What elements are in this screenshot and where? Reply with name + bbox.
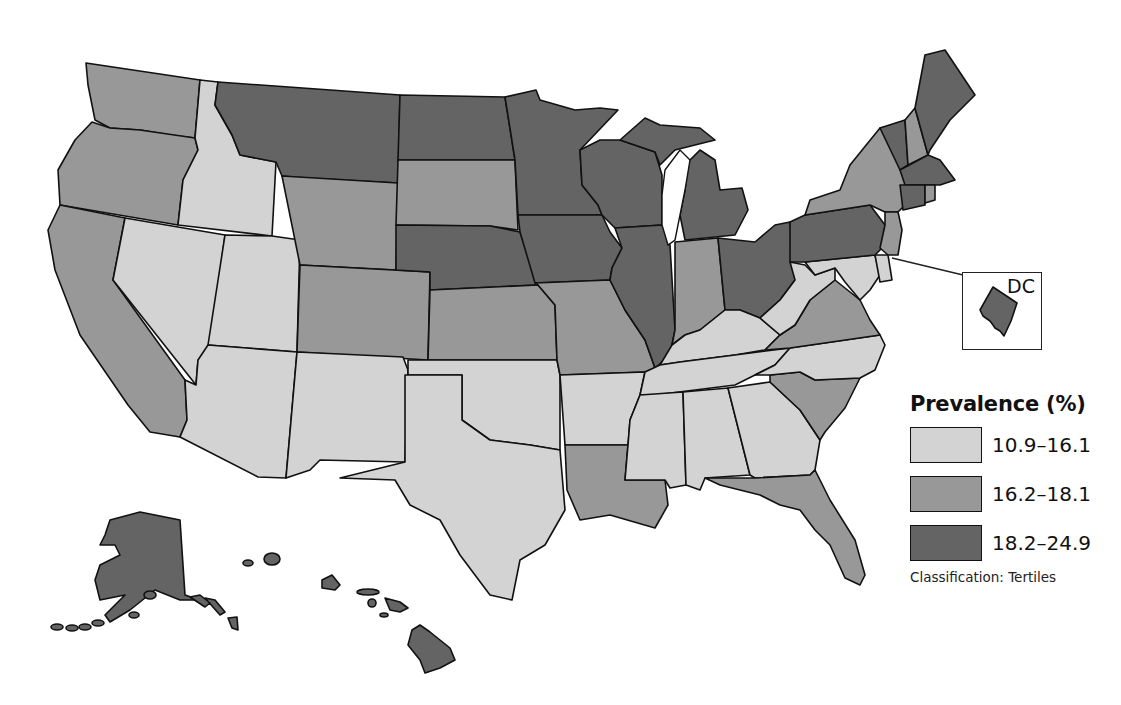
state-mi[interactable] xyxy=(680,150,748,240)
hi-island-molokai[interactable] xyxy=(357,589,379,595)
legend-swatch-low xyxy=(910,427,982,463)
ak-island[interactable] xyxy=(79,624,91,630)
ak-island[interactable] xyxy=(144,591,156,599)
us-choropleth-map xyxy=(0,0,1121,705)
classification-note: Classification: Tertiles xyxy=(910,569,1110,585)
hi-island-maui[interactable] xyxy=(385,598,408,612)
state-ak[interactable] xyxy=(95,512,200,622)
ak-island[interactable] xyxy=(92,620,104,626)
ak-panhandle[interactable] xyxy=(190,595,238,630)
ak-island[interactable] xyxy=(51,624,63,630)
state-sd[interactable] xyxy=(396,160,518,230)
legend-label: 16.2–18.1 xyxy=(992,482,1091,506)
legend-label: 18.2–24.9 xyxy=(992,531,1091,555)
state-wy[interactable] xyxy=(282,176,398,270)
legend-row: 16.2–18.1 xyxy=(910,473,1110,515)
ak-island[interactable] xyxy=(66,625,78,631)
hi-island-oahu[interactable] xyxy=(322,575,340,590)
state-ia[interactable] xyxy=(518,215,622,283)
dc-callout-line xyxy=(892,258,963,275)
hi-island-lanai[interactable] xyxy=(368,599,376,607)
state-az[interactable] xyxy=(180,345,297,478)
hi-island-niihau[interactable] xyxy=(243,560,253,566)
dc-shape[interactable] xyxy=(963,273,1043,351)
dc-inset: DC xyxy=(962,272,1042,350)
state-nd[interactable] xyxy=(398,95,515,160)
legend-title: Prevalence (%) xyxy=(910,392,1110,416)
state-ks[interactable] xyxy=(428,285,557,360)
state-ut[interactable] xyxy=(208,235,300,352)
hi-island-kahoolawe[interactable] xyxy=(380,613,388,617)
legend: Prevalence (%) 10.9–16.1 16.2–18.1 18.2–… xyxy=(910,392,1110,585)
hi-island-big-island[interactable] xyxy=(408,625,455,673)
state-fl[interactable] xyxy=(705,470,865,585)
state-co[interactable] xyxy=(297,265,430,360)
state-ri[interactable] xyxy=(925,185,935,203)
state-me[interactable] xyxy=(915,50,975,155)
legend-swatch-mid xyxy=(910,476,982,512)
state-nj[interactable] xyxy=(880,212,902,255)
legend-swatch-high xyxy=(910,525,982,561)
state-pa[interactable] xyxy=(790,205,885,262)
legend-row: 10.9–16.1 xyxy=(910,424,1110,466)
state-nm[interactable] xyxy=(286,352,408,478)
legend-label: 10.9–16.1 xyxy=(992,433,1091,457)
legend-row: 18.2–24.9 xyxy=(910,522,1110,564)
ak-island[interactable] xyxy=(129,612,139,618)
hi-island-kauai[interactable] xyxy=(264,553,280,565)
state-ct[interactable] xyxy=(900,185,925,210)
